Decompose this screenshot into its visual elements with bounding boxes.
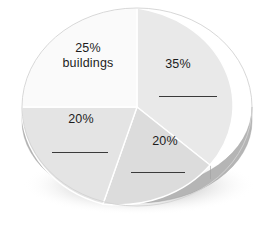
slice-percent-35: 35% — [150, 57, 206, 72]
slice-percent-20-lower-right: 20% — [137, 134, 193, 149]
slice-percent-20-left: 20% — [53, 112, 109, 127]
slice-label-25-buildings: 25% buildings — [52, 41, 124, 70]
slice-label-20-left: 20% — [53, 112, 109, 127]
pie-chart: 25% buildings 35% 20% 20% — [0, 0, 267, 227]
slice-percent-25: 25% — [52, 41, 124, 56]
slice-blank-line-35[interactable] — [159, 96, 217, 97]
slice-blank-line-20-lower-right[interactable] — [131, 172, 185, 173]
slice-blank-line-20-left[interactable] — [52, 152, 108, 153]
slice-name-buildings: buildings — [52, 56, 124, 71]
slice-label-20-lower-right: 20% — [137, 134, 193, 149]
slice-label-35: 35% — [150, 57, 206, 72]
pie-chart-graphic — [0, 0, 267, 227]
